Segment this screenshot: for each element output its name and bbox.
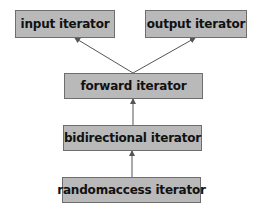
node-label: output iterator — [147, 17, 245, 31]
edge-forward-to-output — [133, 38, 195, 73]
node-input-iterator: input iterator — [15, 10, 115, 38]
edge-forward-to-input — [75, 38, 133, 73]
node-label: bidirectional iterator — [64, 131, 201, 145]
node-forward-iterator: forward iterator — [64, 73, 203, 99]
node-label: input iterator — [21, 17, 110, 31]
node-label: forward iterator — [81, 79, 187, 93]
node-bidirectional-iterator: bidirectional iterator — [63, 125, 202, 151]
node-label: randomaccess iterator — [57, 183, 206, 197]
node-output-iterator: output iterator — [145, 10, 247, 38]
node-randomaccess-iterator: randomaccess iterator — [62, 177, 201, 203]
